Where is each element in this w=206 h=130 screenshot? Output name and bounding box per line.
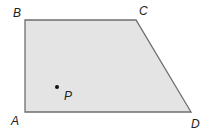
point-p-dot [55,85,59,89]
trapezoid-diagram: A B C D P [0,0,206,130]
label-c: C [139,4,148,18]
label-p: P [64,89,72,103]
label-d: D [191,117,200,130]
label-b: B [13,6,21,20]
label-a: A [10,114,19,128]
trapezoid-abcd [25,20,191,112]
